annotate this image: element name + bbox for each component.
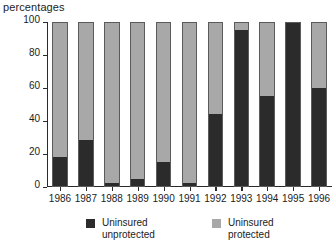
y-axis: 020406080100 [0, 22, 47, 187]
x-tick-label: 1987 [75, 193, 97, 204]
x-tick-mark [293, 187, 294, 191]
bar-group[interactable] [78, 22, 94, 187]
x-tick-label: 1990 [152, 193, 174, 204]
bar-segment-protected[interactable] [105, 23, 119, 183]
x-axis: 1986198719881989199019911992199319941995… [47, 187, 332, 209]
bar-group[interactable] [234, 22, 250, 187]
bar-stack[interactable] [78, 22, 94, 187]
bar-segment-protected[interactable] [260, 23, 274, 96]
bar-group[interactable] [182, 22, 198, 187]
y-tick-label: 0 [34, 180, 40, 190]
bar-segment-unprotected[interactable] [79, 140, 93, 186]
bar-group[interactable] [285, 22, 301, 187]
y-tick-label: 40 [29, 114, 40, 124]
bar-segment-unprotected[interactable] [157, 162, 171, 186]
x-tick-label: 1986 [49, 193, 71, 204]
x-tick-label: 1996 [308, 193, 330, 204]
x-tick-mark [241, 187, 242, 191]
bar-group[interactable] [52, 22, 68, 187]
stacked-bar-chart: percentages 020406080100 198619871988198… [0, 0, 336, 249]
bar-group[interactable] [311, 22, 327, 187]
bar-stack[interactable] [234, 22, 250, 187]
bar-stack[interactable] [156, 22, 172, 187]
x-tick-label: 1991 [178, 193, 200, 204]
bar-segment-protected[interactable] [53, 23, 67, 157]
bar-segment-protected[interactable] [79, 23, 93, 140]
chart-legend: Uninsured unprotectedUninsured protected [86, 217, 336, 247]
bar-segment-unprotected[interactable] [260, 96, 274, 186]
legend-label: Uninsured protected [228, 217, 274, 240]
bar-stack[interactable] [52, 22, 68, 187]
bar-segment-protected[interactable] [131, 23, 145, 179]
bar-group[interactable] [259, 22, 275, 187]
legend-entry[interactable]: Uninsured unprotected [86, 217, 155, 240]
x-tick-label: 1992 [204, 193, 226, 204]
bar-segment-protected[interactable] [312, 23, 326, 88]
bar-group[interactable] [208, 22, 224, 187]
bar-group[interactable] [104, 22, 120, 187]
y-tick-label: 80 [29, 48, 40, 58]
bar-segment-protected[interactable] [209, 23, 223, 114]
bar-stack[interactable] [130, 22, 146, 187]
x-tick-mark [138, 187, 139, 191]
bar-stack[interactable] [285, 22, 301, 187]
bar-segment-unprotected[interactable] [235, 30, 249, 186]
bar-stack[interactable] [259, 22, 275, 187]
x-tick-label: 1995 [282, 193, 304, 204]
x-tick-mark [164, 187, 165, 191]
bar-segment-unprotected[interactable] [105, 183, 119, 186]
x-tick-mark [190, 187, 191, 191]
legend-label: Uninsured unprotected [102, 217, 155, 240]
x-tick-mark [86, 187, 87, 191]
bar-stack[interactable] [208, 22, 224, 187]
bar-segment-unprotected[interactable] [312, 88, 326, 186]
legend-entry[interactable]: Uninsured protected [212, 217, 274, 240]
x-tick-mark [319, 187, 320, 191]
bar-segment-protected[interactable] [157, 23, 171, 162]
bar-segment-unprotected[interactable] [53, 157, 67, 186]
bar-group[interactable] [156, 22, 172, 187]
y-tick-label: 20 [29, 147, 40, 157]
x-tick-mark [112, 187, 113, 191]
legend-swatch-icon [212, 219, 221, 228]
y-tick-label: 60 [29, 81, 40, 91]
y-tick-label: 100 [23, 15, 40, 25]
x-tick-mark [60, 187, 61, 191]
bar-group[interactable] [130, 22, 146, 187]
x-tick-mark [267, 187, 268, 191]
x-tick-label: 1994 [256, 193, 278, 204]
bars-layer [47, 22, 332, 187]
bar-segment-unprotected[interactable] [183, 183, 197, 186]
chart-title: percentages [3, 1, 65, 13]
bar-segment-protected[interactable] [183, 23, 197, 183]
bar-stack[interactable] [182, 22, 198, 187]
bar-stack[interactable] [104, 22, 120, 187]
x-tick-label: 1988 [101, 193, 123, 204]
x-tick-mark [215, 187, 216, 191]
bar-segment-unprotected[interactable] [131, 179, 145, 186]
x-tick-label: 1993 [230, 193, 252, 204]
legend-swatch-icon [86, 219, 95, 228]
x-tick-label: 1989 [127, 193, 149, 204]
bar-stack[interactable] [311, 22, 327, 187]
bar-segment-unprotected[interactable] [286, 23, 300, 186]
bar-segment-unprotected[interactable] [209, 114, 223, 186]
